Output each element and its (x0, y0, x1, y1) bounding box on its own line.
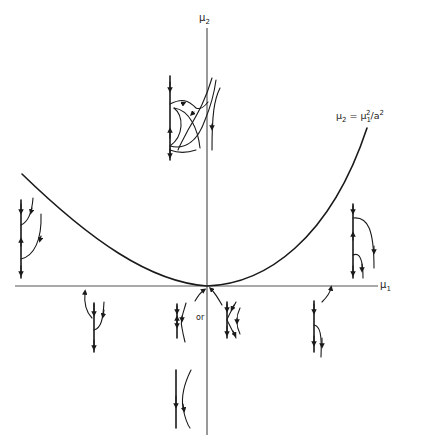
mu2-axis-label: μ2 (199, 13, 210, 26)
portrait-upper-center (170, 76, 220, 160)
portrait-left-upper (21, 198, 41, 278)
portrait-origin-b (211, 289, 240, 338)
parabola-curve (22, 128, 367, 286)
mu1-axis-label: μ1 (380, 280, 391, 293)
or-label: or (196, 314, 204, 322)
bifurcation-diagram (0, 0, 421, 442)
axes (15, 28, 378, 435)
portrait-lower-right (314, 288, 331, 357)
parabola-equation-label: μ2 = μ12/a2 (336, 110, 384, 124)
portrait-right-upper (353, 204, 374, 278)
portrait-lower-center (176, 370, 191, 428)
portrait-lower-left (85, 292, 104, 352)
